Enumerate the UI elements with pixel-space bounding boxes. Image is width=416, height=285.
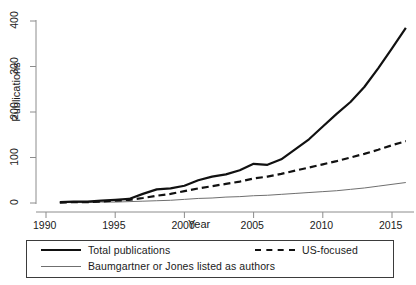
y-tick-label: 100 bbox=[8, 143, 20, 171]
x-tick-label: 2010 bbox=[310, 219, 333, 231]
plot-area bbox=[0, 0, 416, 232]
y-tick-label: 200 bbox=[8, 97, 20, 125]
y-tick-label: 300 bbox=[8, 52, 20, 80]
y-tick-label: 400 bbox=[8, 6, 20, 34]
legend-item-baumgartner-jones: Baumgartner or Jones listed as authors bbox=[41, 260, 275, 272]
legend-item-us-focused: US-focused bbox=[255, 244, 358, 256]
x-tick-label: 1990 bbox=[33, 219, 56, 231]
x-tick-label: 2005 bbox=[241, 219, 264, 231]
x-tick-label: 2015 bbox=[379, 219, 402, 231]
legend-item-total-publications: Total publications bbox=[41, 244, 170, 256]
chart-legend: Total publications Baumgartner or Jones … bbox=[26, 240, 394, 278]
legend-swatch-thin-solid-icon bbox=[41, 261, 81, 271]
legend-swatch-thick-solid-icon bbox=[41, 245, 81, 255]
legend-label-us-focused: US-focused bbox=[302, 244, 358, 256]
x-tick-label: 2000 bbox=[171, 219, 194, 231]
chart-svg bbox=[0, 0, 416, 232]
y-tick-label: 0 bbox=[8, 188, 20, 216]
chart-figure: Publications Year 1990199520002005201020… bbox=[0, 0, 416, 285]
legend-label-total-publications: Total publications bbox=[88, 244, 170, 256]
legend-label-baumgartner-jones: Baumgartner or Jones listed as authors bbox=[88, 260, 275, 272]
legend-swatch-dashed-icon bbox=[255, 245, 295, 255]
series-line-0 bbox=[60, 28, 406, 202]
x-tick-label: 1995 bbox=[102, 219, 125, 231]
